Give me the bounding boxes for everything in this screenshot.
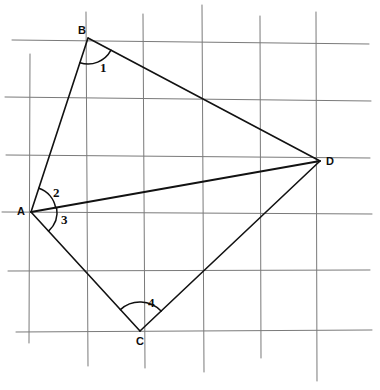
geometry-figure: BACD1234 bbox=[0, 0, 380, 390]
vertex-label-A: A bbox=[17, 205, 25, 217]
grid-row-5 bbox=[8, 270, 370, 271]
angle-label-4: 4 bbox=[148, 295, 155, 310]
grid-row-6 bbox=[16, 330, 372, 332]
vertex-label-D: D bbox=[326, 155, 334, 167]
segment-CD bbox=[140, 161, 320, 331]
segment-BD bbox=[88, 38, 320, 161]
grid-col-5 bbox=[260, 16, 261, 358]
segment-BA bbox=[31, 38, 88, 212]
angle-arc-layer bbox=[39, 50, 161, 311]
figure-canvas: BACD1234 bbox=[0, 0, 380, 390]
angle-arc-3 bbox=[49, 207, 57, 231]
vertex-label-C: C bbox=[136, 335, 144, 347]
angle-label-2: 2 bbox=[53, 185, 60, 200]
segment-AD bbox=[31, 161, 320, 212]
grid-col-2 bbox=[86, 12, 88, 366]
grid-row-1 bbox=[12, 40, 369, 44]
angle-label-3: 3 bbox=[61, 212, 68, 227]
angle-arc-4 bbox=[120, 302, 161, 311]
shape-layer bbox=[31, 38, 320, 331]
grid-row-3 bbox=[6, 155, 370, 158]
vertex-label-B: B bbox=[78, 24, 86, 36]
grid-col-4 bbox=[202, 5, 204, 372]
segment-AC bbox=[31, 212, 140, 331]
grid-col-6 bbox=[316, 12, 317, 381]
angle-label-1: 1 bbox=[100, 60, 107, 75]
